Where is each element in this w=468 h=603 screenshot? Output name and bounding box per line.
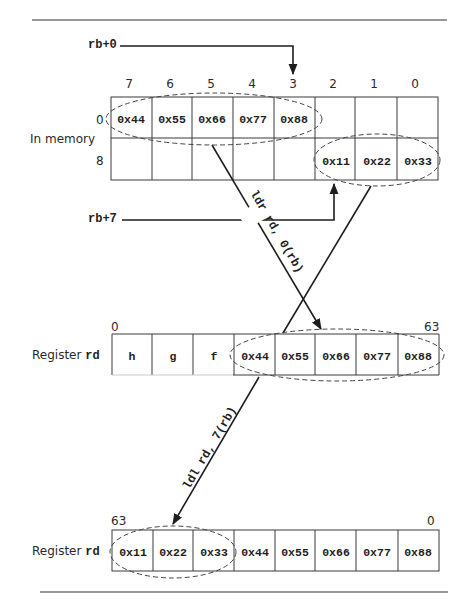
register1-cells: h g f 0x44 0x55 0x66 0x77 0x88 [129,350,432,363]
memory-row-label-8: 8 [96,154,104,168]
register2-right-index: 0 [427,514,435,528]
pointer-rb7-label: rb+7 [88,212,117,226]
ldl-instruction-label: ldl rd, 7(rb) [180,404,240,492]
register-cell: 0x55 [281,350,309,363]
memory-row-label-0: 0 [96,113,104,127]
pointer-rb0-arrow [120,46,293,74]
memory-cell: 0x66 [198,113,226,126]
register1-right-index: 63 [424,320,439,334]
register-cell: 0x55 [281,546,309,559]
register2-left-index: 63 [111,514,126,528]
memory-cell: 0x88 [280,113,308,126]
ldr-instruction-label: ldr rd, 0(rb) [247,188,307,276]
pointer-rb7-arrow [122,184,334,220]
register-cell: 0x44 [241,546,269,559]
col-index-5: 5 [207,77,215,91]
register2-label-reg: rd [85,545,99,559]
register2-label-prefix: Register [32,544,85,558]
register1-label: Register rd [32,348,100,363]
register1-left-index: 0 [111,320,119,334]
memory-cell: 0x55 [158,113,186,126]
col-index-3: 3 [289,77,297,91]
col-index-4: 4 [248,77,256,91]
register-cell: 0x88 [404,546,432,559]
register-cell: 0x33 [200,546,228,559]
ldr-arrow [212,145,321,329]
memory-label: In memory [30,132,95,146]
register2-cells: 0x11 0x22 0x33 0x44 0x55 0x66 0x77 0x88 [119,546,432,559]
unaligned-load-diagram: rb+0 7 6 5 4 3 2 1 0 In memory 0 8 0x44 … [0,0,468,603]
col-index-2: 2 [329,77,337,91]
memory-cell: 0x33 [404,155,432,168]
register-cell: 0x66 [322,350,350,363]
memory-cell: 0x11 [322,155,350,168]
register-cell: 0x66 [322,546,350,559]
pointer-rb0-label: rb+0 [88,38,117,52]
memory-cell: 0x44 [117,113,145,126]
register1-label-prefix: Register [32,348,85,362]
register-cell: 0x44 [241,350,269,363]
register1-grid [112,154,439,375]
register2-label: Register rd [32,544,100,559]
register-cell: 0x11 [119,546,147,559]
register-cell: 0x77 [363,546,391,559]
register-cell: h [129,350,136,363]
memory-row-8: 0x11 0x22 0x33 [322,155,432,168]
register-cell: g [170,350,177,363]
register-cell: 0x22 [159,546,187,559]
register-cell: f [211,350,218,363]
col-index-1: 1 [370,77,378,91]
col-index-0: 0 [411,77,419,91]
memory-cell: 0x77 [239,113,267,126]
col-index-7: 7 [125,77,133,91]
register1-label-reg: rd [85,349,99,363]
memory-row-0: 0x44 0x55 0x66 0x77 0x88 [117,113,308,126]
register-cell: 0x88 [404,350,432,363]
memory-column-indices: 7 6 5 4 3 2 1 0 [125,77,419,91]
memory-cell: 0x22 [363,155,391,168]
register-cell: 0x77 [363,350,391,363]
col-index-6: 6 [166,77,174,91]
